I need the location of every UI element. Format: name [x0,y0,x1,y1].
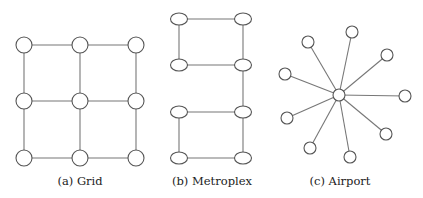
airport-edge [310,95,339,148]
metroplex-caption: (b) Metroplex [172,174,252,188]
airport-node [304,142,316,154]
grid-node [72,150,88,166]
airport-edge [285,74,339,95]
airport-edge [339,95,405,96]
metroplex-node [171,152,188,164]
airport-node [380,128,392,140]
airport-node [344,151,356,163]
metroplex-node [171,106,188,118]
airport-edge [308,42,339,95]
grid-node [16,150,32,166]
network-topologies-diagram [0,0,423,198]
grid-node [128,150,144,166]
metroplex-topology [171,13,252,164]
metroplex-node [235,59,252,71]
airport-node [302,36,314,48]
airport-edge [339,95,386,134]
grid-caption: (a) Grid [57,174,102,188]
airport-node [346,26,358,38]
metroplex-node [235,106,252,118]
grid-node [72,37,88,53]
grid-node [128,37,144,53]
airport-node [281,112,293,124]
airport-node [399,90,411,102]
grid-node [16,93,32,109]
airport-edge [339,95,350,157]
airport-node [279,68,291,80]
grid-node [16,37,32,53]
metroplex-node [235,152,252,164]
airport-topology [279,26,411,163]
airport-edge [287,95,339,118]
grid-topology [16,37,144,166]
grid-node [72,93,88,109]
airport-caption: (c) Airport [310,174,371,188]
grid-node [128,93,144,109]
airport-hub-node [333,89,345,101]
airport-node [381,49,393,61]
metroplex-node [171,59,188,71]
metroplex-node [235,13,252,25]
metroplex-node [171,13,188,25]
